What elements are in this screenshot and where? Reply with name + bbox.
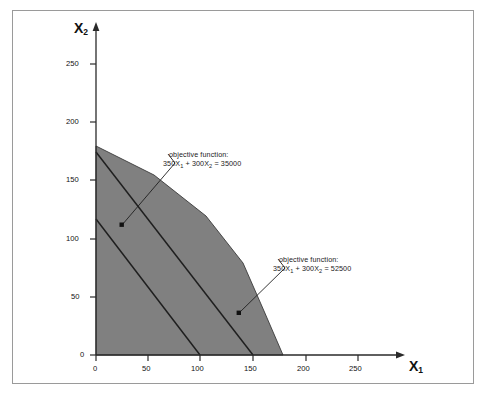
x-tick-label-0: 0: [93, 364, 97, 373]
x-axis-label: X1: [409, 358, 423, 374]
x-tick-label-50: 50: [142, 364, 150, 373]
annotation-35000-sub1: 1: [180, 163, 183, 169]
annotation-35000-value: = 35000: [212, 159, 241, 168]
y-tick-label-150: 150: [66, 175, 79, 184]
y-tick-label-100: 100: [66, 234, 79, 243]
y-axis-label-text: X: [74, 20, 83, 36]
annotation-35000-term2: + 300X: [183, 159, 209, 168]
annotation-35000-term1: 350X: [163, 159, 180, 168]
annotation-35000-line1: objective function:: [169, 150, 241, 159]
x-axis-label-text: X: [409, 358, 418, 374]
y-tick-label-200: 200: [66, 117, 79, 126]
y-axis-label-subscript: 2: [83, 27, 88, 37]
annotation-35000-line2: 350X1 + 300X2 = 35000: [163, 159, 241, 169]
x-tick-label-200: 200: [297, 364, 310, 373]
annotation-52500-term2: + 300X: [293, 264, 319, 273]
y-axis-label: X2: [74, 20, 88, 36]
feasible-region-fill: [96, 146, 283, 355]
y-tick-label-50: 50: [71, 292, 79, 301]
annotation-52500-sub2: 2: [319, 268, 322, 274]
x-tick-label-100: 100: [191, 364, 204, 373]
annotation-52500-line2: 350X1 + 300X2 = 52500: [273, 264, 351, 274]
y-axis-ticks: [90, 64, 96, 355]
annotation-52500-sub1: 1: [290, 268, 293, 274]
annotation-35000-sub2: 2: [209, 163, 212, 169]
x-axis-label-subscript: 1: [418, 365, 423, 375]
annotation-52500-term1: 350X: [273, 264, 290, 273]
x-axis-ticks: [96, 355, 358, 361]
x-tick-label-250: 250: [349, 364, 362, 373]
y-tick-label-250: 250: [66, 59, 79, 68]
x-tick-label-150: 150: [244, 364, 257, 373]
annotation-52500: objective function: 350X1 + 300X2 = 5250…: [279, 255, 351, 275]
x-axis-arrowhead: [396, 352, 405, 359]
y-tick-label-0: 0: [80, 350, 84, 359]
annotation-52500-line1: objective function:: [279, 255, 351, 264]
y-axis-arrowhead: [93, 22, 100, 31]
annotation-52500-value: = 52500: [322, 264, 351, 273]
annotation-35000: objective function: 350X1 + 300X2 = 3500…: [169, 150, 241, 170]
